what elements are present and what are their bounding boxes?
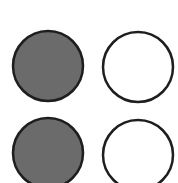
circle-grid-diagram: [0, 0, 178, 183]
empty-circle-row2-col2: [103, 120, 173, 183]
filled-circle-row2-col1: [13, 118, 83, 183]
filled-circle-row1-col1: [13, 31, 83, 101]
empty-circle-row1-col2: [103, 32, 173, 102]
